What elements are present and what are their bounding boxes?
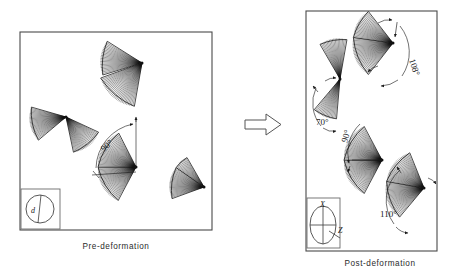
fan-hub <box>203 186 206 189</box>
panel-post-deformation: 108° 70° 90° 110° <box>306 11 437 268</box>
angle-label-110: 110° <box>380 209 397 219</box>
inset-ellipse-post: X Z <box>307 198 343 248</box>
fan-hub <box>65 116 68 119</box>
deformation-figure: 90° d Pre-deformation 108° <box>0 0 454 273</box>
fan-hub <box>392 42 395 45</box>
panel-pre-deformation: 90° d Pre-deformation <box>20 32 212 251</box>
caption-pre-deformation: Pre-deformation <box>83 242 150 251</box>
inset-label-z: Z <box>338 226 343 235</box>
caption-post-deformation: Post-deformation <box>344 259 415 268</box>
angle-label-70: 70° <box>316 117 329 127</box>
inset-circle-pre: d <box>21 189 60 229</box>
fan-hub <box>339 78 342 81</box>
fan-hub <box>141 62 144 65</box>
fan-hub <box>423 187 426 190</box>
transition-arrow <box>245 114 281 135</box>
